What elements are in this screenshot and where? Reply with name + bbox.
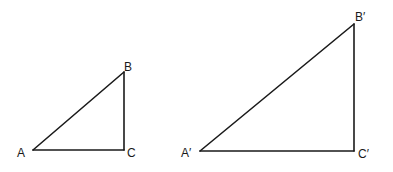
vertex-label-c: C xyxy=(127,146,136,160)
vertex-label-b: B xyxy=(124,60,132,74)
triangle-abc: A B C xyxy=(17,60,136,160)
vertex-label-b-prime: B′ xyxy=(355,10,366,24)
side-a-prime-b-prime xyxy=(200,24,354,151)
vertex-label-a-prime: A′ xyxy=(181,146,192,160)
vertex-label-a: A xyxy=(17,146,25,160)
similar-triangles-diagram: A B C A′ B′ C′ xyxy=(0,0,393,172)
side-ab xyxy=(33,72,124,150)
triangle-a-prime-b-prime-c-prime: A′ B′ C′ xyxy=(181,10,370,161)
vertex-label-c-prime: C′ xyxy=(358,147,370,161)
